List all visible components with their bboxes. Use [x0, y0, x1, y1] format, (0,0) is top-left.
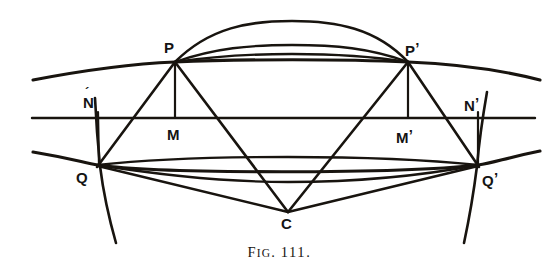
point-label-m-prime: M’ [396, 127, 413, 145]
top-outer-arc [175, 21, 408, 62]
geometric-diagram [0, 0, 559, 276]
prime-mark-p: ’ [415, 39, 419, 56]
figure-caption: FIG. 111. [0, 244, 559, 261]
ordinate-n-q [98, 112, 99, 166]
caption-prefix-letter: F [248, 244, 257, 260]
prime-mark-n: ’ [475, 94, 479, 111]
point-label-q-prime: Q’ [482, 170, 498, 188]
point-label-m: M [167, 127, 180, 142]
ray-p-q [97, 62, 175, 167]
point-label-q: Q [76, 170, 88, 185]
point-label-n-prime: N’ [464, 95, 479, 113]
ray-pprime-c [288, 62, 408, 212]
prime-mark-m: ’ [409, 126, 413, 143]
point-label-c: C [281, 216, 292, 231]
figure-container: P P’ N N’ M M’ Q Q’ C FIG. 111. [0, 0, 559, 276]
caption-number: 111. [281, 244, 312, 260]
prime-mark-q: ’ [494, 169, 498, 186]
ray-pprime-qprime [408, 62, 479, 167]
point-label-p-prime: P’ [405, 40, 420, 58]
upper-ellipse-arc [33, 60, 540, 80]
point-label-p: P [164, 40, 174, 55]
qq-chord-upper [98, 157, 478, 165]
caption-separator: . [271, 244, 280, 260]
point-label-n: N [83, 95, 94, 110]
caption-prefix-smallcaps: IG [257, 247, 272, 259]
